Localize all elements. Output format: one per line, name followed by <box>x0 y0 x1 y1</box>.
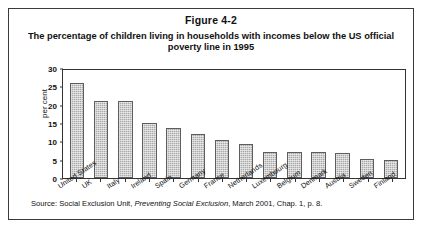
bar-slot <box>331 70 355 178</box>
chart-plot-area: per cent 051015202530 United StatesUKIta… <box>26 69 406 179</box>
y-tick-label: 25 <box>48 83 57 92</box>
y-tick-label: 5 <box>53 156 57 165</box>
bar-slot <box>113 70 137 178</box>
figure-frame: Figure 4-2 The percentage of children li… <box>8 8 414 220</box>
bar <box>142 123 156 178</box>
source-note: Source: Social Exclusion Unit, Preventin… <box>31 199 322 208</box>
bar-slot <box>355 70 379 178</box>
y-axis-ticks: 051015202530 <box>40 69 60 179</box>
y-tick-label: 15 <box>48 120 57 129</box>
bar <box>118 101 132 178</box>
bar-slot <box>234 70 258 178</box>
bar-slot <box>282 70 306 178</box>
bar-series <box>63 70 405 178</box>
figure-number: Figure 4-2 <box>9 14 413 26</box>
source-prefix: Source: Social Exclusion Unit, <box>31 199 132 208</box>
y-tick-label: 20 <box>48 101 57 110</box>
bar-slot <box>162 70 186 178</box>
bar-slot <box>258 70 282 178</box>
y-tick-label: 30 <box>48 65 57 74</box>
bar-slot <box>306 70 330 178</box>
bar-slot <box>210 70 234 178</box>
bar-slot <box>186 70 210 178</box>
x-label-slot: Finland <box>380 181 404 225</box>
y-tick-label: 10 <box>48 138 57 147</box>
bar-slot <box>137 70 161 178</box>
figure-title: The percentage of children living in hou… <box>9 31 413 53</box>
plot-frame <box>62 69 406 179</box>
bar-slot <box>379 70 403 178</box>
bar <box>166 128 180 178</box>
source-suffix: , March 2001, Chap. 1, p. 8. <box>228 199 322 208</box>
source-publication-title: Preventing Social Exclusion <box>134 199 228 208</box>
